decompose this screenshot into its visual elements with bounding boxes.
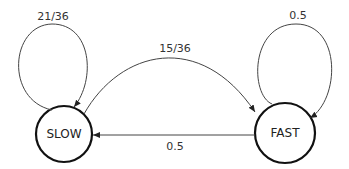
edge-slow-self-loop (19, 24, 88, 110)
edge-label-fast-to-slow: 0.5 (166, 140, 184, 153)
edge-slow-to-fast (84, 58, 255, 114)
node-fast-label: FAST (271, 126, 300, 140)
edge-label-slow-to-fast: 15/36 (159, 42, 191, 55)
node-slow-label: SLOW (46, 127, 81, 141)
edge-label-slow-self: 21/36 (37, 10, 69, 23)
edge-label-fast-self: 0.5 (289, 9, 307, 22)
